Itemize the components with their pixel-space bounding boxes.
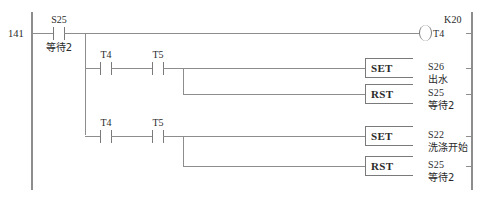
branch-2-output-bus [183,136,184,166]
rung-wire-main-to-coil [64,33,419,34]
branch-1-rst-wire [183,94,365,95]
contact-s25-operand: S25 [51,14,67,25]
instruction-set-s22-operand: S22 [428,129,444,140]
branch-1-set-wire [183,68,365,69]
branch-1-wire-out [163,68,183,69]
rung-wire-main [31,33,53,34]
instruction-set-s26-comment: 出水 [428,74,448,85]
instruction-set-s22-label: SET [371,130,393,142]
branch-2-set-wire [183,136,365,137]
instruction-rst-s25-branch2[interactable]: RST [365,156,413,176]
step-number: 141 [8,28,24,39]
branch-2-wire-out [163,136,183,137]
branch-2-rst-wire [183,166,365,167]
ladder-diagram: 141 S25 等待2 T4 K20 T4 T5 SET S26 出水 R [0,0,504,201]
left-power-rail [31,12,33,190]
right-rail-tick [466,166,471,167]
instruction-rst-s25-branch1[interactable]: RST [365,84,413,104]
instruction-rst-s25-branch1-operand: S25 [428,87,444,98]
instruction-rst-s25-branch2-comment: 等待2 [428,172,454,183]
branch-2-wire-in [85,136,100,137]
instruction-rst-s25-branch2-operand: S25 [428,159,444,170]
instruction-rst-s25-branch2-label: RST [371,160,393,172]
instruction-set-s26-label: SET [371,62,393,74]
branch-2-wire-mid [111,136,152,137]
instruction-set-s22[interactable]: SET [365,126,413,146]
right-rail-tick [466,33,471,34]
right-rail-tick [466,136,471,137]
instruction-rst-s25-branch1-comment: 等待2 [428,100,454,111]
right-rail-tick [466,68,471,69]
coil-t4-preset: K20 [444,14,462,25]
coil-t4-operand: T4 [433,28,445,39]
right-rail-tick [466,94,471,95]
instruction-rst-s25-branch1-label: RST [371,88,393,100]
contact-branch2-t5-operand: T5 [152,117,163,128]
instruction-set-s26-operand: S26 [428,61,444,72]
branch-1-wire-mid [111,68,152,69]
right-power-rail [471,12,473,190]
branch-bus-vertical [85,33,86,135]
contact-s25-comment: 等待2 [46,42,72,53]
coil-t4[interactable] [419,25,432,41]
contact-branch2-t4-operand: T4 [100,117,111,128]
branch-1-output-bus [183,68,184,94]
contact-branch1-t5-operand: T5 [152,49,163,60]
instruction-set-s22-comment: 洗涤开始 [428,142,468,153]
instruction-set-s26[interactable]: SET [365,58,413,78]
contact-branch1-t4-operand: T4 [100,49,111,60]
branch-1-wire-in [85,68,100,69]
